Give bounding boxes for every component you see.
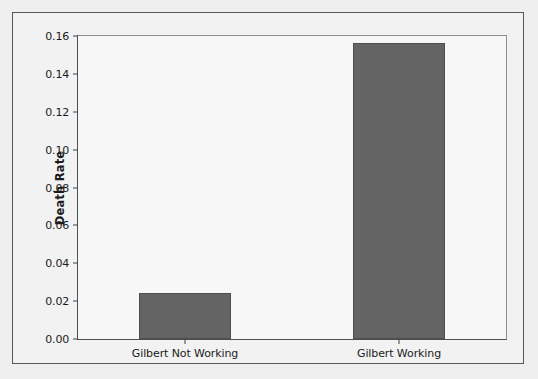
- y-axis-tick-mark: [73, 339, 78, 340]
- y-axis-tick: 0.06: [45, 219, 78, 232]
- y-axis-tick: 0.12: [45, 105, 78, 118]
- y-axis-tick: 0.02: [45, 295, 78, 308]
- x-axis-tick-label: Gilbert Working: [357, 347, 441, 360]
- chart-figure: Death Rate 0.000.020.040.060.080.100.120…: [12, 12, 524, 364]
- y-axis-tick-label: 0.06: [45, 219, 73, 232]
- y-axis-tick: 0.16: [45, 30, 78, 43]
- y-axis-tick-label: 0.00: [45, 333, 73, 346]
- y-axis-tick: 0.10: [45, 143, 78, 156]
- x-axis-tick-label: Gilbert Not Working: [132, 347, 238, 360]
- bar: [353, 43, 445, 339]
- y-axis-tick: 0.00: [45, 333, 78, 346]
- y-axis-tick-label: 0.10: [45, 143, 73, 156]
- y-axis-tick-label: 0.02: [45, 295, 73, 308]
- y-axis-tick-mark: [73, 111, 78, 112]
- y-axis-tick-label: 0.16: [45, 30, 73, 43]
- x-axis-tick-mark: [185, 339, 186, 344]
- y-axis-tick: 0.14: [45, 67, 78, 80]
- y-axis-tick-label: 0.14: [45, 67, 73, 80]
- x-axis-tick-mark: [399, 339, 400, 344]
- y-axis-tick-mark: [73, 263, 78, 264]
- plot-area: 0.000.020.040.060.080.100.120.140.16 Gil…: [77, 35, 507, 340]
- y-axis-tick: 0.08: [45, 181, 78, 194]
- y-axis-tick-mark: [73, 187, 78, 188]
- y-axis-tick-mark: [73, 149, 78, 150]
- y-axis-tick-label: 0.12: [45, 105, 73, 118]
- y-axis-tick-label: 0.08: [45, 181, 73, 194]
- y-axis-tick-mark: [73, 36, 78, 37]
- y-axis-tick-mark: [73, 73, 78, 74]
- y-axis-tick-mark: [73, 301, 78, 302]
- y-axis-tick-label: 0.04: [45, 257, 73, 270]
- y-axis-tick: 0.04: [45, 257, 78, 270]
- bar: [139, 293, 231, 339]
- y-axis-tick-mark: [73, 225, 78, 226]
